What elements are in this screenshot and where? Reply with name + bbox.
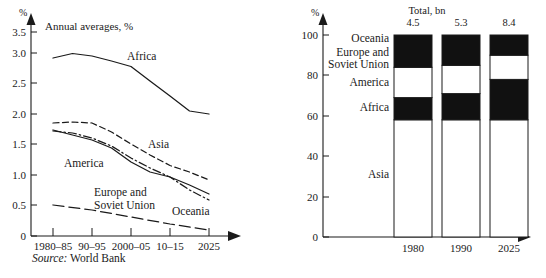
bar-label-america: America (349, 76, 389, 88)
line-x-tick-5: 2025 (198, 240, 221, 252)
bar-total-1980: 4.5 (406, 17, 419, 28)
bar-segment-africa-1980 (394, 98, 432, 120)
bar-segment-asia-1990 (442, 120, 480, 237)
bar-group-2025: 8.4 2025 (490, 17, 528, 254)
bar-segment-europe-oceania-1990 (442, 35, 480, 65)
bar-group-1990: 5.3 1990 (442, 17, 480, 254)
series-label-africa: Africa (127, 50, 156, 62)
line-x-tick-2: 90–95 (78, 240, 106, 252)
bar-segment-america-1990 (442, 65, 480, 93)
bar-segment-africa-1990 (442, 94, 480, 120)
stacked-bar-chart-panel: % 0 20 40 60 80 100 (290, 0, 546, 278)
line-y-tick-2_5: 2.5 (12, 77, 26, 89)
line-chart-svg: % 0 0.5 1.0 1.5 2.0 (0, 0, 290, 278)
line-y-tick-1_0: 1.0 (12, 169, 26, 181)
bar-total-1990: 5.3 (454, 17, 467, 28)
bar-y-tick-40: 40 (307, 150, 319, 162)
bar-segment-asia-2025 (490, 120, 528, 237)
line-chart-y-ticks: 0 0.5 1.0 1.5 2.0 2.5 3.0 3.5 (12, 26, 37, 242)
line-y-tick-2_0: 2.0 (12, 108, 26, 120)
source-prefix: Source: (32, 252, 67, 264)
series-label-asia: Asia (148, 138, 169, 150)
bar-y-tick-0: 0 (313, 231, 319, 243)
bar-chart-y-ticks: 0 20 40 60 80 100 (302, 29, 330, 243)
line-y-tick-0_5: 0.5 (12, 199, 26, 211)
series-label-oceania: Oceania (172, 205, 210, 217)
bar-label-europe-line2: Soviet Union (328, 58, 389, 70)
bar-y-tick-100: 100 (302, 29, 319, 41)
bar-chart-y-unit: % (311, 7, 319, 18)
x-axis-arrow-icon (228, 231, 241, 241)
bar-y-tick-20: 20 (307, 191, 319, 203)
line-x-tick-3: 2000–05 (112, 240, 151, 252)
bar-segment-america-2025 (490, 55, 528, 79)
line-y-tick-3_5: 3.5 (12, 26, 26, 38)
bar-y-axis-arrow-icon (319, 13, 328, 25)
line-y-tick-0: 0 (21, 230, 27, 242)
bar-segment-europe-oceania-1980 (394, 35, 432, 67)
bar-x-tick-2025: 2025 (498, 242, 521, 254)
bar-segment-europe-oceania-2025 (490, 35, 528, 55)
bar-segment-asia-1980 (394, 120, 432, 237)
series-label-europe-line2: Soviet Union (94, 199, 155, 211)
source-note: Source: World Bank (32, 252, 126, 264)
bar-total-2025: 8.4 (502, 17, 516, 28)
line-chart-x-ticks: 1980–85 90–95 2000–05 10–15 2025 (34, 228, 221, 252)
figure-root: % 0 0.5 1.0 1.5 2.0 (0, 0, 546, 278)
bar-label-oceania: Oceania (351, 32, 389, 44)
series-label-europe-line1: Europe and (94, 186, 147, 199)
source-text: World Bank (70, 252, 126, 264)
line-chart-title: Annual averages, % (45, 20, 133, 32)
line-y-tick-3_0: 3.0 (12, 47, 26, 59)
bar-segment-america-1980 (394, 67, 432, 97)
line-y-tick-1_5: 1.5 (12, 138, 26, 150)
bar-x-tick-1980: 1980 (402, 242, 425, 254)
series-label-america: America (64, 157, 104, 169)
bar-x-tick-1990: 1990 (450, 242, 473, 254)
totals-header-label: Total, bn (408, 5, 446, 16)
line-x-tick-4: 10–15 (156, 240, 184, 252)
bar-segment-africa-2025 (490, 79, 528, 119)
line-chart-panel: % 0 0.5 1.0 1.5 2.0 (0, 0, 290, 278)
bar-label-asia: Asia (368, 168, 389, 180)
bar-y-tick-60: 60 (307, 110, 319, 122)
series-line-asia (53, 122, 209, 180)
bar-group-1980: 4.5 1980 (394, 17, 432, 254)
bar-label-africa: Africa (360, 101, 389, 113)
y-axis-arrow-icon (27, 13, 36, 25)
line-x-tick-1: 1980–85 (34, 240, 73, 252)
series-line-africa (53, 54, 209, 115)
bar-y-tick-80: 80 (307, 69, 319, 81)
stacked-bar-chart-svg: % 0 20 40 60 80 100 (290, 0, 546, 278)
line-chart-y-unit: % (19, 7, 27, 18)
